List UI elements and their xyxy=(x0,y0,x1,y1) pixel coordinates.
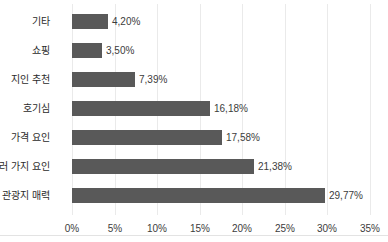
bar-관광지-매력 xyxy=(72,188,325,203)
bar-지인-추천 xyxy=(72,72,135,87)
gridline xyxy=(327,4,328,215)
xtick-label: 0% xyxy=(65,223,79,234)
xtick-label: 25% xyxy=(275,223,295,234)
category-label-가격-요인: 가격 요인 xyxy=(11,130,50,145)
bar-value-label: 4,20% xyxy=(108,14,140,29)
category-label-지인-추천: 지인 추천 xyxy=(11,72,50,87)
category-label-호기심: 호기심 xyxy=(23,101,50,116)
bar-value-label: 17,58% xyxy=(222,130,260,145)
xtick-label: 15% xyxy=(190,223,210,234)
category-label-기타: 기타 xyxy=(32,14,50,29)
bar-쇼핑 xyxy=(72,43,102,58)
plot-area: 4,20% 3,50% 7,39% 16,18% 17,58% 21,38% 2… xyxy=(72,4,370,215)
gridline xyxy=(285,4,286,215)
bar-value-label: 3,50% xyxy=(102,43,134,58)
bar-chart: 4,20% 3,50% 7,39% 16,18% 17,58% 21,38% 2… xyxy=(0,0,388,242)
chart-bottom-edge xyxy=(0,235,388,236)
xtick-label: 30% xyxy=(317,223,337,234)
bar-가격-요인 xyxy=(72,130,222,145)
bar-value-label: 29,77% xyxy=(325,188,363,203)
xtick-label: 10% xyxy=(147,223,167,234)
xtick-label: 5% xyxy=(108,223,122,234)
category-label-쇼핑: 쇼핑 xyxy=(32,43,50,58)
bar-기타 xyxy=(72,14,108,29)
xtick-label: 35% xyxy=(360,223,380,234)
bar-value-label: 21,38% xyxy=(254,159,292,174)
bar-호기심 xyxy=(72,101,210,116)
category-label-여러-가지-요인: 여러 가지 요인 xyxy=(0,159,50,174)
bar-value-label: 7,39% xyxy=(135,72,167,87)
gridline xyxy=(370,4,371,215)
category-label-관광지-매력: 관광지 매력 xyxy=(2,188,50,203)
bar-여러-가지-요인 xyxy=(72,159,254,174)
xtick-label: 20% xyxy=(232,223,252,234)
bar-value-label: 16,18% xyxy=(210,101,248,116)
